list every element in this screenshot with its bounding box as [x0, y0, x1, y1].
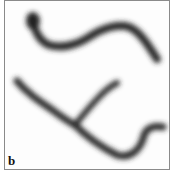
lower-filament-lower-arm: [75, 125, 163, 156]
panel-label: b: [8, 154, 15, 167]
lower-filament-left-arm: [17, 81, 75, 125]
figure-panel: b: [4, 0, 170, 170]
upper-filament: [31, 17, 157, 59]
upper-filament-head: [26, 12, 40, 30]
filament-image: [5, 1, 170, 170]
lower-filament-upper-arm: [75, 83, 117, 125]
